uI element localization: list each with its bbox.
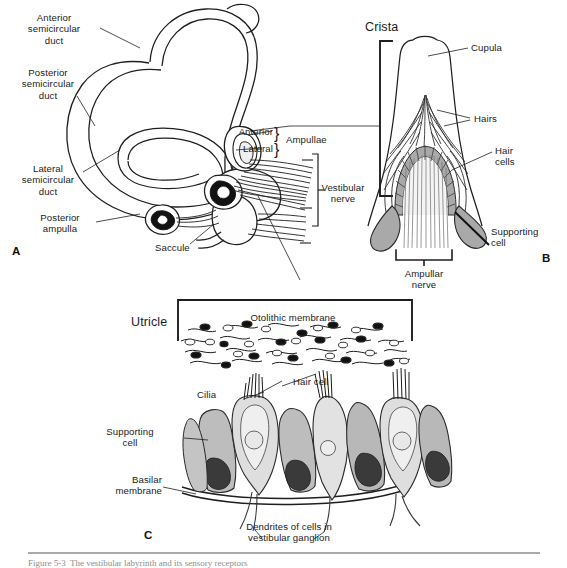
label-anterior-semicircular-duct: Anterior semicircular duct: [6, 12, 102, 46]
panel-letter-a: A: [12, 245, 20, 257]
label-saccule: Saccule: [155, 242, 190, 253]
label-crista: Crista: [365, 22, 398, 33]
label-ampullar-nerve: Ampullar nerve: [389, 268, 459, 291]
label-cupula: Cupula: [471, 42, 502, 53]
label-vestibular-nerve: Vestibular nerve: [306, 182, 380, 205]
panel-b-artwork: [368, 36, 492, 266]
label-hairs: Hairs: [474, 113, 497, 124]
otoconia: [185, 321, 409, 368]
label-cilia: Cilia: [197, 389, 216, 400]
label-ampulla-lateral: Lateral: [213, 143, 273, 154]
figure-caption: Figure 5-3 The vestibular labyrinth and …: [28, 558, 548, 568]
label-supporting-cell-b: Supporting cell: [491, 226, 538, 249]
panel-c-artwork: [163, 300, 452, 539]
panel-letter-b: B: [542, 252, 550, 264]
panel-letter-c: C: [144, 529, 152, 541]
label-basilar-membrane: Basilar membrane: [86, 474, 162, 497]
label-utricle: Utricle: [131, 317, 167, 328]
ampullae-brace-lower-icon: }: [274, 142, 280, 158]
label-ampulla-anterior: Anterior: [213, 126, 273, 137]
label-hair-cells: Hair cells: [495, 145, 515, 168]
ampullae-brace-upper-icon: }: [274, 126, 280, 142]
label-otolithic-membrane: Otolithic membrane: [218, 312, 368, 323]
label-ampullae: Ampullae: [286, 134, 327, 145]
label-supporting-cell-c: Supporting cell: [92, 426, 168, 449]
figure-root: Anterior semicircular duct Posterior sem…: [0, 0, 567, 568]
label-posterior-ampulla: Posterior ampulla: [14, 212, 106, 235]
label-hair-cell: Hair cell: [293, 376, 329, 387]
label-posterior-semicircular-duct: Posterior semicircular duct: [0, 67, 96, 101]
label-dendrites: Dendrites of cells in vestibular ganglio…: [211, 521, 367, 544]
label-lateral-semicircular-duct: Lateral semicircular duct: [0, 163, 96, 197]
caption-divider-rule: [28, 552, 540, 554]
